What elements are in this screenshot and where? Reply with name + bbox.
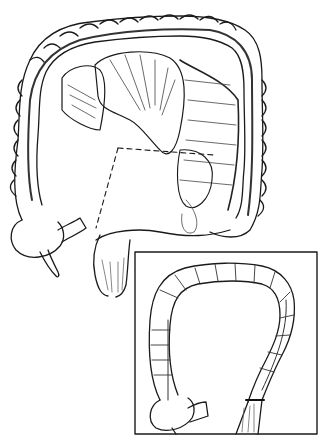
inset-border xyxy=(135,252,317,434)
mesentery xyxy=(62,52,239,233)
colon-illustration xyxy=(0,0,323,439)
main-colon xyxy=(10,15,266,277)
resection-lines xyxy=(96,148,214,228)
